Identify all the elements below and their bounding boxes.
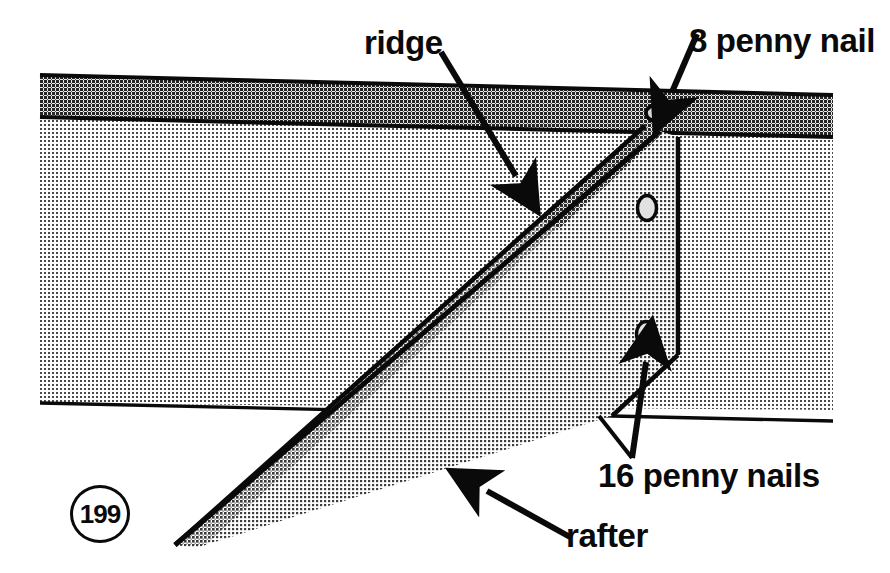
figure-number: 199: [70, 485, 130, 543]
sixteen-penny-nail-lower: [637, 322, 656, 347]
sixteen-penny-leader-tail: [599, 416, 632, 458]
eight-penny-nail: [646, 104, 674, 122]
label-8-penny-nail: 8 penny nail: [689, 22, 875, 60]
label-rafter: rafter: [566, 517, 648, 555]
rafter-leader-arrow: [487, 491, 570, 537]
label-16-penny-nails: 16 penny nails: [598, 457, 820, 495]
sixteen-penny-nail-upper: [638, 196, 657, 221]
label-ridge: ridge: [364, 24, 443, 62]
wall-bottom-edge-right: [612, 416, 833, 421]
